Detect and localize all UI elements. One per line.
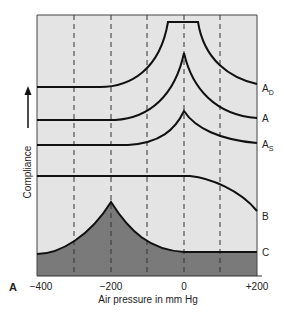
label-a: A bbox=[262, 113, 269, 124]
panel-label: A bbox=[9, 281, 17, 293]
svg-text:−200: −200 bbox=[100, 281, 123, 292]
label-as: AS bbox=[262, 139, 274, 152]
label-b: B bbox=[262, 211, 269, 222]
x-tick-labels: −400 −200 0 +200 bbox=[30, 281, 269, 292]
svg-text:+200: +200 bbox=[246, 281, 269, 292]
svg-text:Compliance: Compliance bbox=[22, 145, 33, 198]
svg-text:−400: −400 bbox=[30, 281, 53, 292]
tympanogram-chart: AD A AS B C Compliance −400 −200 0 +200 … bbox=[0, 0, 284, 320]
label-ad: AD bbox=[262, 83, 274, 96]
arrow-up-icon bbox=[25, 86, 32, 95]
label-c: C bbox=[262, 247, 269, 258]
y-axis-label: Compliance bbox=[22, 86, 33, 198]
x-axis-title: Air pressure in mm Hg bbox=[98, 294, 197, 305]
svg-text:0: 0 bbox=[181, 281, 187, 292]
